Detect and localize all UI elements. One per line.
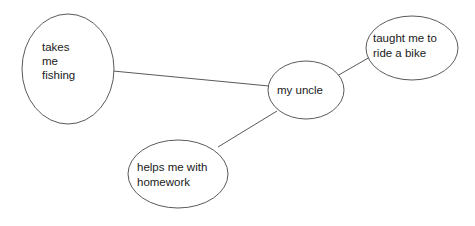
node-label-line: ride a bike <box>373 47 426 59</box>
node-label-my-uncle: my uncle <box>277 84 323 96</box>
edge-my-uncle-to-helps-me-with-homework <box>218 111 277 147</box>
node-label-line: fishing <box>42 69 75 81</box>
edge-my-uncle-to-takes-me-fishing <box>113 71 269 86</box>
node-taught-me-to-ride-a-bike[interactable]: taught me toride a bike <box>366 16 458 80</box>
node-label-line: my uncle <box>277 84 323 96</box>
edge-my-uncle-to-taught-me-to-ride-a-bike <box>337 57 370 76</box>
node-shape-helps-me-with-homework <box>128 140 228 208</box>
node-label-line: me <box>42 55 58 67</box>
concept-map-diagram: takesmefishingtaught me toride a bikehel… <box>0 0 475 226</box>
node-label-line: takes <box>42 41 70 53</box>
node-takes-me-fishing[interactable]: takesmefishing <box>22 14 114 124</box>
node-label-line: helps me with <box>137 161 207 173</box>
node-label-line: homework <box>137 176 190 188</box>
node-label-line: taught me to <box>373 32 437 44</box>
node-my-uncle[interactable]: my uncle <box>268 61 344 119</box>
node-group: takesmefishingtaught me toride a bikehel… <box>22 14 458 208</box>
node-helps-me-with-homework[interactable]: helps me withhomework <box>128 140 228 208</box>
concept-map-canvas: takesmefishingtaught me toride a bikehel… <box>0 0 475 226</box>
